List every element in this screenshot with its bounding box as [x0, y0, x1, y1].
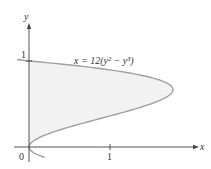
equation-label: x = 12(y² − y³) [73, 55, 134, 67]
chart-plot: y x 0 1 1 x = 12(y² − y³) [0, 0, 211, 169]
y-axis-label: y [23, 11, 29, 22]
x-tick-1-label: 1 [107, 151, 112, 162]
x-axis-label: x [199, 141, 205, 152]
y-axis-arrow-icon [27, 23, 31, 29]
y-tick-1-label: 1 [21, 49, 26, 60]
origin-label: 0 [19, 151, 24, 162]
x-axis-arrow-icon [193, 145, 199, 149]
